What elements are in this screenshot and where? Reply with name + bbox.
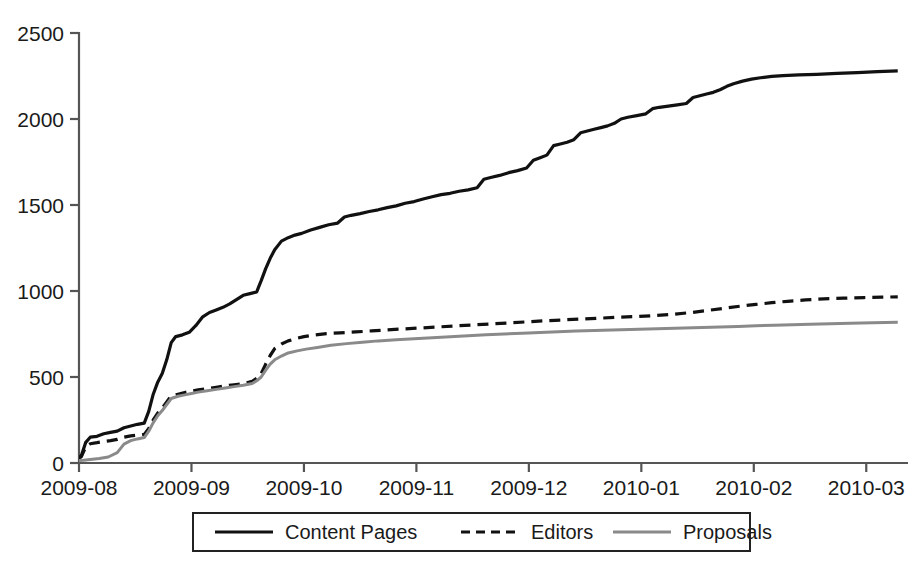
series-line-content-pages bbox=[43, 71, 898, 461]
legend-label-content-pages: Content Pages bbox=[285, 521, 417, 543]
x-tick-label: 2009-11 bbox=[379, 476, 455, 499]
y-tick-label: 1500 bbox=[17, 194, 64, 217]
y-tick-label: 2500 bbox=[17, 22, 64, 45]
series-line-editors bbox=[43, 297, 898, 462]
y-tick-label: 2000 bbox=[17, 108, 64, 131]
y-tick-label: 1000 bbox=[17, 280, 64, 303]
y-axis-ticks: 05001000150020002500 bbox=[17, 22, 79, 475]
y-tick-label: 500 bbox=[29, 366, 64, 389]
legend-label-editors: Editors bbox=[531, 521, 593, 543]
x-axis-ticks: 2009-082009-092009-102009-112009-122010-… bbox=[40, 463, 904, 499]
x-tick-label: 2009-09 bbox=[153, 476, 230, 499]
x-tick-label: 2010-02 bbox=[715, 476, 792, 499]
data-series bbox=[43, 71, 898, 462]
x-tick-label: 2010-01 bbox=[603, 476, 680, 499]
x-tick-label: 2010-03 bbox=[828, 476, 905, 499]
chart-legend: Content PagesEditorsProposals bbox=[193, 513, 772, 551]
x-tick-label: 2009-12 bbox=[490, 476, 567, 499]
line-chart: 05001000150020002500 2009-082009-092009-… bbox=[0, 0, 916, 574]
axes bbox=[79, 32, 908, 463]
x-tick-label: 2009-08 bbox=[40, 476, 117, 499]
legend-label-proposals: Proposals bbox=[683, 521, 772, 543]
chart-canvas: 05001000150020002500 2009-082009-092009-… bbox=[0, 0, 916, 574]
y-tick-label: 0 bbox=[52, 452, 64, 475]
x-tick-label: 2009-10 bbox=[265, 476, 342, 499]
